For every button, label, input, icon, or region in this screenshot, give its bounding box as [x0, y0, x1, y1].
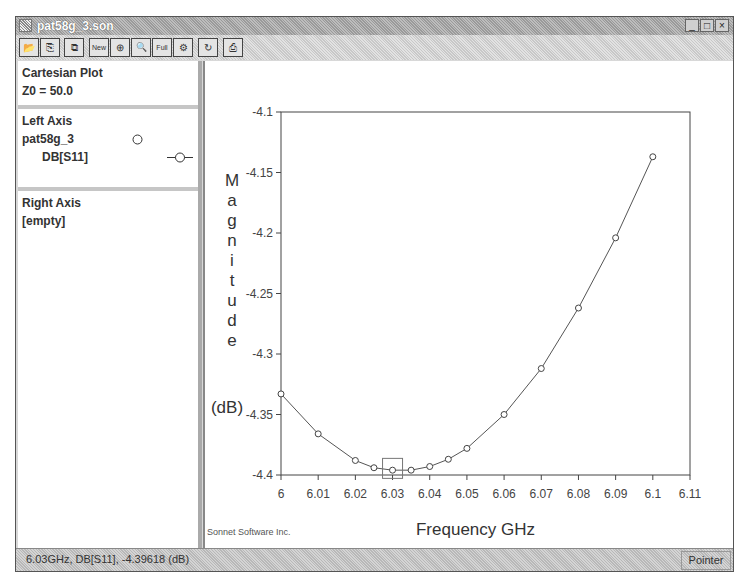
cartesian-chart[interactable]: -4.1-4.15-4.2-4.25-4.3-4.35-4.466.016.02… — [205, 61, 731, 548]
data-point[interactable] — [408, 467, 414, 473]
right-axis-title: Right Axis — [22, 194, 194, 212]
y-axis-unit-label: (dB) — [211, 398, 243, 417]
x-tick-label: 6.08 — [567, 487, 591, 501]
minimize-button[interactable]: _ — [685, 19, 699, 32]
data-point[interactable] — [352, 457, 358, 463]
plot-area[interactable]: -4.1-4.15-4.2-4.25-4.3-4.35-4.466.016.02… — [203, 61, 733, 548]
title-bar[interactable]: pat58g_3.son _ □ × — [16, 17, 733, 35]
project-label: pat58g_3 — [22, 132, 74, 146]
cursor-readout: 6.03GHz, DB[S11], -4.39618 (dB) — [26, 553, 189, 565]
refresh-button[interactable]: ↻ — [198, 38, 218, 57]
y-axis-label-letter: g — [227, 211, 236, 230]
x-tick-label: 6.01 — [307, 487, 331, 501]
data-point[interactable] — [501, 412, 507, 418]
y-axis-label-letter: a — [227, 191, 237, 210]
credit-label: Sonnet Software Inc. — [207, 527, 291, 537]
open-button[interactable]: 📂 — [19, 38, 39, 57]
zoom-out-button[interactable]: 🔍 — [131, 38, 151, 57]
toolbar: 📂 ⎘ ⧉ New ⊕ 🔍 Full ⚙ ↻ ⎙ — [16, 35, 733, 60]
plot-type-label: Cartesian Plot — [22, 64, 194, 82]
x-tick-label: 6.03 — [381, 487, 405, 501]
zoom-full-button[interactable]: Full — [152, 38, 172, 57]
maximize-button[interactable]: □ — [700, 19, 714, 32]
data-point[interactable] — [650, 154, 656, 160]
data-point[interactable] — [575, 305, 581, 311]
zoom-in-button[interactable]: ⊕ — [110, 38, 130, 57]
data-point[interactable] — [427, 464, 433, 470]
y-axis-label-letter: t — [230, 271, 235, 290]
x-tick-label: 6.07 — [530, 487, 554, 501]
y-axis-label-letter: n — [227, 231, 236, 250]
x-tick-label: 6.04 — [418, 487, 442, 501]
y-tick-label: -4.2 — [252, 226, 273, 240]
project-row[interactable]: pat58g_3 — [22, 130, 194, 148]
sidebar: Cartesian Plot Z0 = 50.0 Left Axis pat58… — [18, 61, 202, 548]
data-point[interactable] — [613, 235, 619, 241]
x-tick-label: 6.05 — [455, 487, 479, 501]
window-title: pat58g_3.son — [37, 19, 114, 33]
print-button[interactable]: ⎙ — [223, 38, 243, 57]
x-tick-label: 6.02 — [344, 487, 368, 501]
y-axis-label-letter: u — [227, 291, 236, 310]
y-tick-label: -4.4 — [252, 468, 273, 482]
data-point[interactable] — [390, 467, 396, 473]
curve-legend-icon — [167, 152, 193, 163]
right-axis-section: Right Axis [empty] — [18, 191, 198, 251]
right-axis-value: [empty] — [22, 212, 194, 230]
x-tick-label: 6.09 — [604, 487, 628, 501]
data-point[interactable] — [464, 445, 470, 451]
y-tick-label: -4.35 — [246, 408, 274, 422]
copy-plot-button[interactable]: ⎘ — [40, 38, 60, 57]
add-curve-button[interactable]: ⚙ — [173, 38, 193, 57]
z0-label: Z0 = 50.0 — [22, 82, 194, 100]
y-tick-label: -4.15 — [246, 166, 274, 180]
left-axis-section: Left Axis pat58g_3 DB[S11] — [18, 109, 198, 191]
status-bar: 6.03GHz, DB[S11], -4.39618 (dB) Pointer — [16, 548, 733, 571]
x-tick-label: 6.06 — [492, 487, 516, 501]
x-tick-label: 6.1 — [644, 487, 661, 501]
curve-label: DB[S11] — [42, 150, 88, 164]
y-tick-label: -4.25 — [246, 287, 274, 301]
x-axis-label: Frequency GHz — [416, 520, 535, 539]
app-icon — [19, 19, 32, 32]
x-tick-label: 6.11 — [679, 487, 702, 501]
data-point[interactable] — [315, 431, 321, 437]
data-point[interactable] — [371, 465, 377, 471]
x-tick-label: 6 — [278, 487, 285, 501]
plot-info-section: Cartesian Plot Z0 = 50.0 — [18, 61, 198, 109]
curve-row[interactable]: DB[S11] — [22, 148, 194, 166]
series-line — [281, 157, 653, 470]
project-symbol-icon — [132, 134, 143, 145]
y-axis-label-letter: d — [227, 311, 236, 330]
y-axis-label-letter: M — [225, 171, 239, 190]
y-axis-label-letter: i — [230, 251, 234, 270]
mode-indicator: Pointer — [681, 551, 731, 570]
y-tick-label: -4.3 — [252, 347, 273, 361]
data-point[interactable] — [445, 456, 451, 462]
y-tick-label: -4.1 — [252, 105, 273, 119]
paste-button[interactable]: ⧉ — [64, 38, 84, 57]
new-plot-button[interactable]: New — [89, 38, 109, 57]
y-axis-label-letter: e — [227, 331, 236, 350]
plot-window: pat58g_3.son _ □ × 📂 ⎘ ⧉ New ⊕ 🔍 Full ⚙ … — [15, 16, 734, 572]
data-point[interactable] — [538, 366, 544, 372]
data-point[interactable] — [278, 391, 284, 397]
close-button[interactable]: × — [715, 19, 729, 32]
left-axis-title: Left Axis — [22, 112, 194, 130]
plot-frame — [281, 112, 690, 475]
